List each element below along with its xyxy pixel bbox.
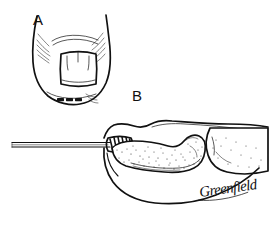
dash-marks-group — [57, 98, 82, 101]
panel-label-a: A — [33, 11, 43, 28]
nail-plate-flap — [60, 52, 97, 87]
middle-phalanx — [206, 128, 268, 174]
figure-canvas: A — [0, 0, 271, 227]
panel-label-b: B — [132, 87, 142, 104]
dash-mark — [66, 98, 73, 101]
illustration-svg: A — [0, 0, 271, 227]
dash-mark — [75, 98, 82, 101]
dash-mark — [57, 98, 64, 101]
